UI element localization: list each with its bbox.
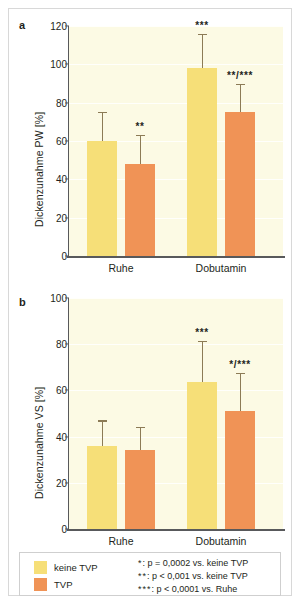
y-tick-mark bbox=[65, 102, 69, 103]
bar-a-dobutamin-tvp bbox=[225, 112, 255, 256]
figure-card: a Dickenzunahme PW [%] 020406080100120**… bbox=[8, 8, 292, 596]
legend-note-3-stars: *** bbox=[138, 584, 152, 594]
y-tick-mark bbox=[65, 217, 69, 218]
x-axis-label-dobutamin: Dobutamin bbox=[196, 262, 247, 274]
legend-note-2: **: p < 0,001 vs. keine TVP bbox=[138, 571, 248, 581]
gridline bbox=[69, 26, 283, 27]
y-tick-mark bbox=[65, 297, 69, 298]
error-bar bbox=[202, 34, 203, 69]
panel-b-letter: b bbox=[19, 296, 26, 308]
significance-annotation: *** bbox=[195, 328, 208, 338]
gridline bbox=[69, 103, 283, 104]
gridline bbox=[69, 390, 283, 391]
panel-b-y-axis-line bbox=[68, 298, 69, 529]
legend-note-3: ***: p < 0,0001 vs. Ruhe bbox=[138, 584, 237, 594]
panel-b-y-axis-title: Dickenzunahme VS [%] bbox=[33, 387, 45, 499]
y-tick-mark bbox=[65, 140, 69, 141]
legend-label-tvp: TVP bbox=[54, 579, 72, 590]
error-bar bbox=[102, 112, 103, 141]
significance-annotation: *** bbox=[195, 21, 208, 31]
legend-note-2-stars: ** bbox=[138, 571, 147, 581]
y-tick-mark bbox=[65, 390, 69, 391]
error-bar bbox=[202, 341, 203, 383]
panel-a-y-axis-title: Dickenzunahme PW [%] bbox=[33, 112, 45, 227]
panel-b: b Dickenzunahme VS [%] 020406080100Ruhe*… bbox=[9, 291, 291, 544]
error-bar bbox=[140, 427, 141, 450]
legend-swatch-tvp bbox=[34, 578, 47, 591]
y-tick-mark bbox=[65, 25, 69, 26]
error-bar-cap bbox=[236, 84, 245, 85]
error-bar-cap bbox=[136, 135, 145, 136]
panel-a-x-axis-line bbox=[67, 256, 285, 258]
legend-label-keine-tvp: keine TVP bbox=[54, 562, 98, 573]
significance-annotation: ** bbox=[136, 122, 145, 132]
legend-note-3-text: : p < 0,0001 vs. Ruhe bbox=[152, 584, 238, 594]
y-tick-mark bbox=[65, 528, 69, 529]
y-tick-mark bbox=[65, 482, 69, 483]
legend: keine TVP TVP *: p = 0,0002 vs. keine TV… bbox=[19, 552, 281, 596]
bar-a-ruhe-tvp bbox=[125, 164, 155, 256]
error-bar bbox=[240, 373, 241, 411]
error-bar-cap bbox=[198, 34, 207, 35]
legend-swatch-keine-tvp bbox=[34, 561, 47, 574]
panel-b-x-axis-line bbox=[67, 529, 285, 531]
gridline bbox=[69, 64, 283, 65]
error-bar-cap bbox=[198, 341, 207, 342]
y-tick-mark bbox=[65, 255, 69, 256]
bar-a-ruhe-keine-tvp bbox=[87, 141, 117, 256]
error-bar bbox=[102, 420, 103, 445]
y-tick-mark bbox=[65, 64, 69, 65]
x-axis-label-dobutamin: Dobutamin bbox=[196, 535, 247, 547]
legend-note-1-text: : p = 0,0002 vs. keine TVP bbox=[143, 558, 249, 568]
error-bar-cap bbox=[236, 373, 245, 374]
panel-a-plot-area: 020406080100120**Ruhe*****/***Dobutamin bbox=[69, 26, 283, 256]
x-axis-label-ruhe: Ruhe bbox=[108, 535, 133, 547]
gridline bbox=[69, 298, 283, 299]
legend-note-2-text: : p < 0,001 vs. keine TVP bbox=[147, 571, 248, 581]
error-bar-cap bbox=[98, 112, 107, 113]
bar-a-dobutamin-keine-tvp bbox=[187, 68, 217, 256]
panel-a: a Dickenzunahme PW [%] 020406080100120**… bbox=[9, 9, 291, 291]
bar-b-ruhe-tvp bbox=[125, 450, 155, 529]
x-axis-label-ruhe: Ruhe bbox=[108, 262, 133, 274]
legend-note-1: *: p = 0,0002 vs. keine TVP bbox=[138, 558, 248, 568]
bar-b-dobutamin-keine-tvp bbox=[187, 382, 217, 529]
y-tick-mark bbox=[65, 179, 69, 180]
bar-b-ruhe-keine-tvp bbox=[87, 446, 117, 529]
error-bar bbox=[140, 135, 141, 164]
significance-annotation: */*** bbox=[229, 360, 250, 370]
significance-annotation: **/*** bbox=[227, 71, 253, 81]
error-bar-cap bbox=[136, 427, 145, 428]
bar-b-dobutamin-tvp bbox=[225, 411, 255, 529]
y-tick-mark bbox=[65, 436, 69, 437]
panel-a-letter: a bbox=[19, 19, 25, 31]
error-bar-cap bbox=[98, 420, 107, 421]
y-tick-mark bbox=[65, 344, 69, 345]
gridline bbox=[69, 344, 283, 345]
panel-b-plot-area: 020406080100Ruhe****/***Dobutamin bbox=[69, 298, 283, 529]
error-bar bbox=[240, 84, 241, 113]
